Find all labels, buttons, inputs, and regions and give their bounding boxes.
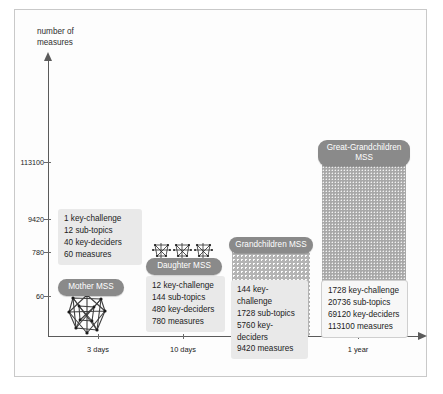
group-0-label-pill[interactable]: Mother MSS bbox=[58, 279, 124, 296]
y-tick-label: 113100 bbox=[4, 158, 44, 167]
y-axis-title: number of measures bbox=[37, 26, 74, 48]
x-tick-label-1: 10 days bbox=[153, 345, 213, 354]
x-tick-mark bbox=[183, 334, 184, 339]
group-0-details-box: 1 key-challenge 12 sub-topics 40 key-dec… bbox=[58, 209, 142, 265]
group-2-details-box: 144 key-challenge 1728 sub-topics 5760 k… bbox=[231, 280, 308, 359]
x-axis-arrow-icon bbox=[418, 332, 427, 340]
group-1-details-box: 12 key-challenge 144 sub-topics 480 key-… bbox=[146, 276, 225, 332]
group-1-label-pill[interactable]: Daughter MSS bbox=[146, 258, 222, 275]
x-tick-label-3: 1 year bbox=[328, 345, 388, 354]
y-axis-arrow-icon bbox=[44, 52, 52, 61]
y-tick-mark bbox=[44, 252, 51, 253]
group-2-label-pill[interactable]: Grandchildren MSS bbox=[229, 237, 313, 253]
network-mesh-icon bbox=[63, 292, 111, 336]
y-tick-label: 9420 bbox=[4, 215, 44, 224]
group-3-details-box: 1728 key-challenge 20736 sub-topics 6912… bbox=[321, 280, 408, 338]
y-tick-label: 60 bbox=[4, 292, 44, 301]
y-tick-mark bbox=[44, 162, 51, 163]
y-tick-label: 780 bbox=[4, 248, 44, 257]
chart-figure: number of measures 113100 9420 780 60 3 … bbox=[0, 0, 443, 394]
y-tick-mark bbox=[44, 219, 51, 220]
x-tick-label-0: 3 days bbox=[68, 345, 128, 354]
group-3-label-pill[interactable]: Great-Grandchildren MSS bbox=[318, 140, 410, 166]
y-tick-mark bbox=[44, 296, 51, 297]
network-mesh-cluster-icon bbox=[152, 241, 216, 259]
